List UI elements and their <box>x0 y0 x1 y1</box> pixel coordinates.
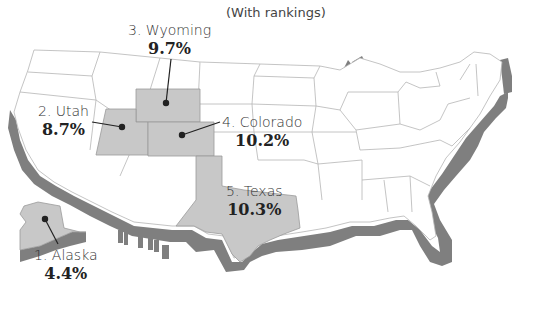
label-alaska: 1. Alaska 4.4% <box>34 247 98 283</box>
label-texas: 5. Texas 10.3% <box>226 183 283 219</box>
label-colorado: 4. Colorado 10.2% <box>222 114 302 150</box>
us-map-chart: (With rankings) <box>0 0 536 309</box>
state-wyoming <box>136 89 200 122</box>
label-wyoming: 3. Wyoming 9.7% <box>128 22 211 58</box>
label-utah: 2. Utah 8.7% <box>38 103 89 139</box>
